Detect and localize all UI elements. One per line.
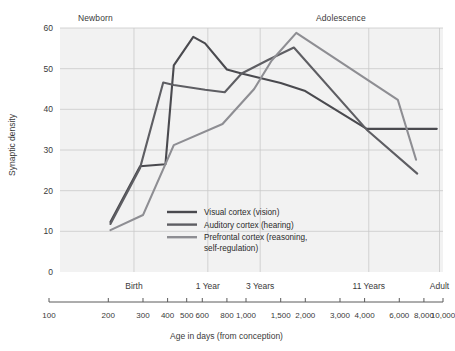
x-tick-label: 300 [136,311,149,320]
x-tick-label: 1,500 [271,311,291,320]
x-tick-label: 3,000 [330,311,350,320]
x-tick-label: 200 [102,311,115,320]
x-tick-label: 6,000 [389,311,409,320]
y-tick-label: 60 [31,23,53,33]
y-tick-label: 40 [31,104,53,114]
x-tick-label: 4,000 [355,311,375,320]
x-tick-label: 400 [161,311,174,320]
stage-label: 11 Years [353,281,385,291]
legend-label-1: Auditory cortex (hearing) [204,221,294,230]
x-tick-label: 10,000 [431,311,455,320]
y-tick-label: 10 [31,226,53,236]
x-tick-label: 500 [180,311,193,320]
legend-label-0: Visual cortex (vision) [204,208,280,217]
x-tick-label: 1,000 [236,311,256,320]
stage-label: 3 Years [246,281,274,291]
y-tick-label: 20 [31,186,53,196]
legend-label-2-line2: self-regulation) [204,244,258,253]
y-tick-label: 0 [31,267,53,277]
x-tick-label: 2,000 [295,311,315,320]
x-tick-label: 100 [42,311,55,320]
legend-label-2: Prefrontal cortex (reasoning, [204,233,307,242]
y-tick-label: 30 [31,145,53,155]
y-tick-label: 50 [31,64,53,74]
stage-label: Adult [430,281,449,291]
stage-label: 1 Year [196,281,220,291]
x-tick-label: 600 [196,311,209,320]
x-tick-label: 800 [220,311,233,320]
x-axis-title: Age in days (from conception) [0,331,453,341]
stage-label: Birth [125,281,142,291]
